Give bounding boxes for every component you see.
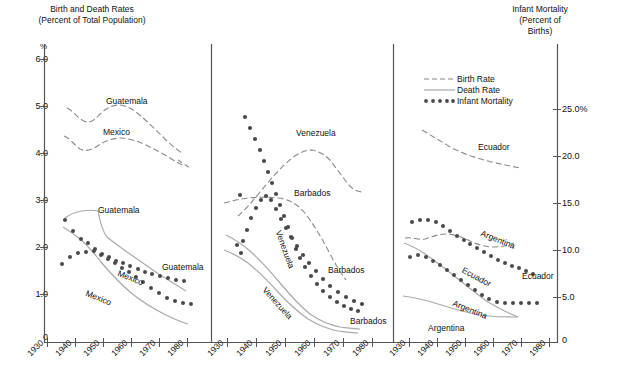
label-p1-im-guatemala-top: Guatemala — [98, 205, 140, 215]
legend-swatch-infant-mortality — [424, 99, 455, 103]
label-p1-birth-mexico: Mexico — [103, 127, 130, 137]
label-p1-im-guatemala-right: Guatemala — [162, 262, 204, 272]
label-p2-death-barbados: Barbados — [350, 316, 386, 326]
legend-label-birth-rate: Birth Rate — [457, 74, 495, 84]
chart-figure: Birth and Death Rates (Percent of Total … — [0, 0, 619, 386]
label-p3-birth-ecuador: Ecuador — [478, 142, 510, 152]
series-p2-im-venezuela-start — [235, 193, 243, 255]
label-p2-im-barbados: Barbados — [328, 265, 364, 275]
series-p2-birth-venezuela — [238, 150, 364, 216]
label-p2-birth-barbados: Barbados — [294, 188, 330, 198]
legend-label-infant-mortality: Infant Mortality — [457, 96, 513, 106]
series-p3-im-ecuador — [410, 218, 535, 276]
label-p1-birth-guatemala: Guatemala — [106, 96, 148, 106]
label-p3-im-ecuador-right: Ecuador — [522, 271, 554, 281]
label-p3-death-argentina: Argentina — [428, 323, 464, 333]
series-p2-im-venezuela — [243, 115, 360, 313]
label-p2-birth-venezuela: Venezuela — [296, 128, 336, 138]
legend-label-death-rate: Death Rate — [457, 85, 500, 95]
